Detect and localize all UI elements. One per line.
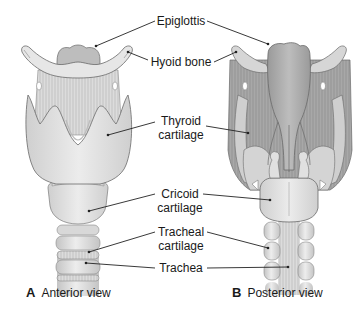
caption-anterior: AAnterior view bbox=[26, 285, 111, 300]
label-trachea: Trachea bbox=[156, 261, 206, 275]
panel-letter-a: A bbox=[26, 285, 35, 300]
anterior-view bbox=[22, 45, 133, 296]
label-cricoid-line1: Cricoid bbox=[156, 187, 204, 201]
panel-title-posterior: Posterior view bbox=[247, 286, 322, 300]
label-cricoid-cartilage: Cricoid cartilage bbox=[156, 187, 204, 215]
label-thyroid-cartilage: Thyroid cartilage bbox=[156, 114, 206, 142]
caption-posterior: BPosterior view bbox=[232, 285, 323, 300]
label-hyoid-bone: Hyoid bone bbox=[149, 55, 213, 69]
label-tracheal-line2: cartilage bbox=[156, 239, 206, 253]
posterior-view bbox=[228, 43, 352, 296]
larynx-diagram: Epiglottis Hyoid bone Thyroid cartilage … bbox=[0, 0, 361, 310]
panel-letter-b: B bbox=[232, 285, 241, 300]
label-thyroid-line1: Thyroid bbox=[156, 114, 206, 128]
label-cricoid-line2: cartilage bbox=[156, 201, 204, 215]
label-epiglottis: Epiglottis bbox=[156, 14, 206, 28]
panel-title-anterior: Anterior view bbox=[41, 286, 110, 300]
label-thyroid-line2: cartilage bbox=[156, 128, 206, 142]
label-tracheal-line1: Tracheal bbox=[156, 225, 206, 239]
label-tracheal-cartilage: Tracheal cartilage bbox=[156, 225, 206, 253]
